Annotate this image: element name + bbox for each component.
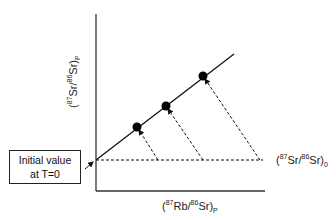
callout-line-1: Initial value [10,153,80,167]
evolution-arrow-3 [205,79,260,160]
callout-arrow [85,162,93,169]
evolution-arrow-2 [168,109,203,160]
evolution-arrow-1 [139,130,158,160]
initial-ratio-label: (87Sr/86Sr)0 [276,153,328,168]
sample-point-1 [133,123,142,132]
callout-line-2: at T=0 [10,167,80,181]
sample-point-3 [199,72,208,81]
sample-point-2 [162,102,171,111]
y-axis-label: (87Sr/86Sr)P [66,55,81,108]
initial-value-callout: Initial value at T=0 [9,150,81,184]
isochron-diagram [0,0,336,220]
x-axis-label: (87Rb/86Sr)P [162,199,218,214]
